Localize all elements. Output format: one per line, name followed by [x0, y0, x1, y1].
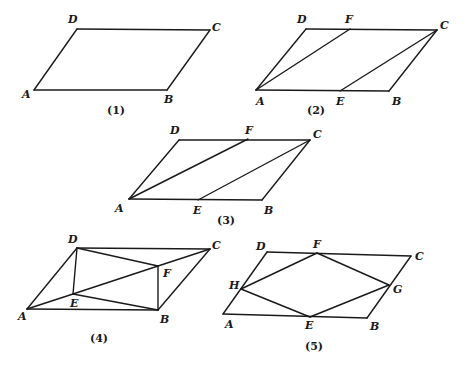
vertex-label-C: C — [313, 128, 322, 141]
vertex-label-C: C — [212, 21, 221, 34]
segment-AB — [256, 90, 389, 91]
vertex-label-C: C — [440, 19, 449, 32]
segment-HE — [241, 289, 310, 317]
vertex-label-E: E — [335, 95, 345, 108]
segment-GF — [317, 253, 389, 285]
vertex-label-F: F — [244, 124, 254, 137]
vertex-label-A: A — [21, 88, 31, 101]
vertex-label-D: D — [255, 240, 266, 253]
vertex-label-A: A — [224, 318, 234, 331]
vertex-label-B: B — [369, 320, 379, 333]
segment-EG — [310, 285, 389, 317]
segment-BC — [262, 140, 310, 200]
vertex-label-D: D — [67, 13, 78, 26]
vertex-label-E: E — [304, 319, 314, 332]
vertex-label-B: B — [391, 95, 401, 108]
segment-CD — [306, 29, 437, 30]
parallelogram-figure-5: DFCHGAEB(5) — [223, 238, 424, 353]
vertex-label-F: F — [344, 13, 354, 26]
segment-CD — [77, 248, 210, 249]
vertex-label-D: D — [169, 124, 180, 137]
vertex-label-F: F — [162, 267, 172, 280]
vertex-label-D: D — [296, 13, 307, 26]
vertex-label-A: A — [17, 310, 27, 323]
vertex-label-F: F — [312, 238, 322, 251]
vertex-label-B: B — [163, 93, 173, 106]
segment-DA — [129, 140, 179, 199]
vertex-label-C: C — [212, 239, 221, 252]
segment-DE — [73, 248, 77, 294]
segment-CD — [267, 252, 411, 256]
segment-EF — [73, 266, 158, 294]
segment-EC — [198, 140, 310, 200]
vertex-label-G: G — [393, 283, 402, 296]
parallelogram-figure-3: DFCAEB(3) — [114, 124, 322, 227]
segment-AB — [129, 199, 262, 200]
geometry-diagram: DCAB(1)DFCAEB(2)DFCAEB(3)DCFEAB(4)DFCHGA… — [0, 0, 468, 368]
segment-AF — [256, 29, 350, 90]
vertex-label-H: H — [228, 279, 240, 292]
parallelogram-figure-1: DCAB(1) — [21, 13, 221, 117]
figure-caption: (5) — [305, 340, 323, 353]
segment-AB — [27, 309, 158, 310]
segment-BC — [367, 256, 411, 318]
vertex-label-A: A — [114, 202, 124, 215]
vertex-label-D: D — [67, 233, 78, 246]
vertex-label-C: C — [415, 250, 424, 263]
segment-BC — [389, 30, 437, 91]
segment-BC — [167, 30, 210, 90]
figure-caption: (1) — [107, 104, 125, 117]
vertex-label-E: E — [192, 204, 202, 217]
vertex-label-B: B — [263, 204, 273, 217]
vertex-label-A: A — [255, 95, 265, 108]
segment-EC — [340, 30, 437, 91]
parallelogram-figure-2: DFCAEB(2) — [255, 13, 449, 117]
segment-FH — [241, 253, 317, 289]
figure-caption: (2) — [307, 104, 325, 117]
parallelogram-figure-4: DCFEAB(4) — [17, 233, 221, 345]
segment-DF — [77, 248, 158, 266]
segment-EB — [73, 294, 158, 310]
segment-CD — [77, 29, 210, 30]
segment-DA — [34, 29, 77, 90]
vertex-label-B: B — [159, 313, 169, 326]
segment-DA — [256, 29, 306, 90]
vertex-label-E: E — [69, 297, 79, 310]
segment-AB — [223, 314, 367, 318]
segment-AF — [129, 139, 248, 199]
figure-caption: (4) — [90, 332, 108, 345]
figure-caption: (3) — [217, 214, 235, 227]
